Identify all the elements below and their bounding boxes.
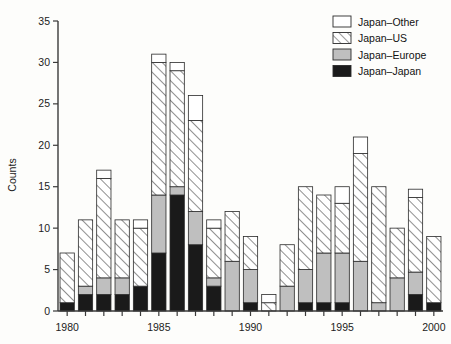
y-tick-label-5: 5 xyxy=(44,263,50,275)
bar-segment-japan-europe xyxy=(372,303,386,311)
bar-segment-japan-europe xyxy=(408,272,422,294)
bar-segment-japan-us xyxy=(427,236,441,302)
stacked-bar-chart: 0510152025303519801985199019952000 Japan… xyxy=(0,0,451,344)
x-tick-label-2000: 2000 xyxy=(422,321,446,333)
bar-segment-japan-europe xyxy=(78,286,92,294)
bar-1982 xyxy=(97,170,111,311)
legend-label-japan: Japan–Japan xyxy=(358,65,421,77)
chart-legend: Japan–OtherJapan–USJapan–EuropeJapan–Jap… xyxy=(333,16,426,78)
bar-segment-japan-europe xyxy=(170,187,184,195)
bar-segment-japan-us xyxy=(60,253,74,303)
bar-segment-japan-other xyxy=(97,170,111,178)
bar-1994 xyxy=(317,195,331,311)
bar-segment-japan-europe xyxy=(298,270,312,303)
bar-1988 xyxy=(207,220,221,311)
x-tick-label-1985: 1985 xyxy=(147,321,171,333)
bar-1993 xyxy=(298,187,312,311)
y-tick-label-0: 0 xyxy=(44,305,50,317)
bar-segment-japan-europe xyxy=(97,278,111,295)
bar-segment-japan-japan xyxy=(317,303,331,311)
bar-1990 xyxy=(243,236,257,311)
bar-segment-japan-other xyxy=(188,96,202,121)
bar-segment-japan-japan xyxy=(427,303,441,311)
bar-segment-japan-us xyxy=(152,62,166,195)
bar-segment-japan-europe xyxy=(317,253,331,303)
bar-segment-japan-us xyxy=(280,245,294,286)
bar-segment-japan-japan xyxy=(243,303,257,311)
bar-segment-japan-us xyxy=(97,178,111,277)
bar-segment-japan-japan xyxy=(133,286,147,311)
bar-1983 xyxy=(115,220,129,311)
legend-label-europe: Japan–Europe xyxy=(358,49,426,61)
x-tick-label-1990: 1990 xyxy=(239,321,263,333)
bar-segment-japan-us xyxy=(390,228,404,278)
bar-segment-japan-europe xyxy=(335,253,349,303)
bar-1997 xyxy=(372,187,386,311)
bar-segment-japan-japan xyxy=(152,253,166,311)
bar-segment-japan-europe xyxy=(353,261,367,311)
bar-segment-japan-japan xyxy=(188,245,202,311)
bar-segment-japan-japan xyxy=(335,303,349,311)
bar-segment-japan-europe xyxy=(390,278,404,311)
legend-label-other: Japan–Other xyxy=(358,16,419,28)
bar-segment-japan-japan xyxy=(115,294,129,311)
bar-segment-japan-europe xyxy=(115,278,129,295)
bar-segment-japan-us xyxy=(298,187,312,270)
bar-segment-japan-japan xyxy=(298,303,312,311)
bar-1981 xyxy=(78,220,92,311)
bar-segment-japan-us xyxy=(372,187,386,303)
y-tick-label-15: 15 xyxy=(38,180,50,192)
bar-segment-japan-us xyxy=(188,120,202,211)
bar-segment-japan-other xyxy=(353,137,367,154)
bar-segment-japan-us xyxy=(78,220,92,286)
y-tick-label-10: 10 xyxy=(38,222,50,234)
bar-1986 xyxy=(170,62,184,311)
legend-swatch-other xyxy=(333,16,351,27)
bar-segment-japan-europe xyxy=(207,278,221,286)
bar-1999 xyxy=(408,189,422,311)
bar-segment-japan-japan xyxy=(78,294,92,311)
bar-segment-japan-us xyxy=(317,195,331,253)
bar-segment-japan-us xyxy=(243,236,257,269)
bars-group xyxy=(60,54,441,311)
bar-segment-japan-other xyxy=(133,220,147,228)
bar-1980 xyxy=(60,253,74,311)
bar-segment-japan-japan xyxy=(408,294,422,311)
bar-1989 xyxy=(225,212,239,311)
bar-2000 xyxy=(427,236,441,311)
bar-1987 xyxy=(188,96,202,311)
y-tick-label-20: 20 xyxy=(38,139,50,151)
bar-segment-japan-japan xyxy=(170,195,184,311)
legend-label-us: Japan–US xyxy=(358,32,407,44)
y-axis-title: Counts xyxy=(6,158,18,191)
bar-segment-japan-other xyxy=(152,54,166,62)
y-tick-label-35: 35 xyxy=(38,15,50,27)
bar-segment-japan-us xyxy=(353,154,367,262)
bar-segment-japan-japan xyxy=(60,303,74,311)
legend-swatch-japan xyxy=(333,66,351,77)
legend-swatch-us xyxy=(333,33,351,44)
bar-segment-japan-other xyxy=(335,187,349,204)
bar-segment-japan-us xyxy=(335,203,349,253)
bar-1985 xyxy=(152,54,166,311)
bar-1998 xyxy=(390,228,404,311)
bar-segment-japan-other xyxy=(170,62,184,70)
y-tick-label-25: 25 xyxy=(38,97,50,109)
bar-segment-japan-us xyxy=(115,220,129,278)
bar-1996 xyxy=(353,137,367,311)
bar-segment-japan-us xyxy=(207,228,221,278)
x-tick-label-1995: 1995 xyxy=(330,321,354,333)
bar-1995 xyxy=(335,187,349,311)
bar-segment-japan-us xyxy=(408,197,422,272)
bar-1991 xyxy=(262,294,276,311)
bar-segment-japan-us xyxy=(170,71,184,187)
bar-1992 xyxy=(280,245,294,311)
bar-segment-japan-us xyxy=(225,212,239,262)
bar-segment-japan-other xyxy=(262,294,276,302)
bar-segment-japan-europe xyxy=(188,212,202,245)
bar-1984 xyxy=(133,220,147,311)
bar-segment-japan-europe xyxy=(152,195,166,253)
bar-segment-japan-europe xyxy=(280,286,294,311)
bar-segment-japan-europe xyxy=(225,261,239,311)
bar-segment-japan-japan xyxy=(97,294,111,311)
